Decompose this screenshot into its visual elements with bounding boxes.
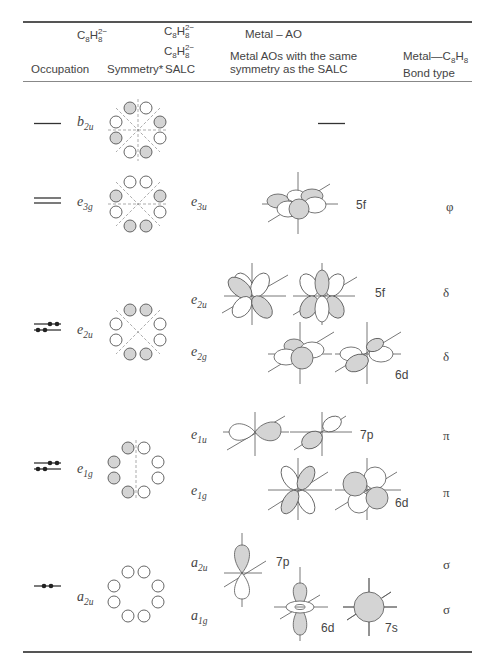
ao-label-7s-a1g: 7s bbox=[385, 621, 398, 635]
top-rule bbox=[23, 21, 472, 23]
symmetry-label-e3g: e3g bbox=[77, 194, 93, 212]
ao-label-6d-e2g: 6d bbox=[395, 368, 408, 382]
salc-label-a2u: a2u bbox=[191, 555, 208, 573]
orbital-7p-e1u-b-icon bbox=[290, 412, 360, 457]
header-c8h8-salc-top: C8H2−8 bbox=[164, 24, 194, 42]
orbital-6d-e2g-a-icon bbox=[268, 322, 338, 387]
symmetry-label-b2u: b2u bbox=[77, 114, 94, 132]
ao-label-5f-e3u: 5f bbox=[356, 198, 366, 212]
ring-e1g-icon bbox=[108, 440, 168, 510]
salc-label-e3u: e3u bbox=[191, 194, 207, 212]
ring-a2u-icon bbox=[108, 564, 168, 634]
occupation-empty-level-icon bbox=[34, 122, 64, 126]
occupation-filled-single-icon bbox=[34, 583, 64, 589]
orbital-5f-e3u-icon bbox=[260, 172, 340, 237]
ao-label-5f-e2u: 5f bbox=[375, 286, 385, 300]
header-metal-ao: Metal – AO bbox=[245, 28, 302, 41]
salc-label-e1u: e1u bbox=[191, 427, 207, 445]
bond-type-delta-1: δ bbox=[443, 285, 449, 301]
metal-ao-none-icon bbox=[318, 122, 348, 126]
ao-label-6d-a1g: 6d bbox=[321, 621, 334, 635]
orbital-5f-e2u-b-icon bbox=[293, 263, 363, 328]
salc-label-e2g: e2g bbox=[191, 344, 207, 362]
orbital-7p-a2u-icon bbox=[222, 533, 272, 608]
bond-type-pi-1: π bbox=[443, 428, 450, 444]
header-symmetry: Symmetry* bbox=[107, 63, 163, 76]
bond-type-pi-2: π bbox=[443, 485, 450, 501]
salc-label-e1g: e1g bbox=[191, 483, 207, 501]
bond-type-sigma-1: σ bbox=[443, 557, 450, 573]
salc-label-e2u: e2u bbox=[191, 292, 207, 310]
occupation-filled-pair-icon bbox=[34, 322, 64, 332]
orbital-6d-e1g-b-icon bbox=[335, 458, 405, 523]
header-occupation: Occupation bbox=[31, 63, 89, 76]
ring-b2u-icon bbox=[108, 97, 168, 167]
header-c8h8-salc-bottom: C8H2−8 bbox=[164, 44, 194, 62]
bond-type-phi: φ bbox=[446, 199, 454, 215]
ring-e3g-icon bbox=[108, 176, 168, 246]
header-metal-aos: Metal AOs with the same symmetry as the … bbox=[230, 50, 357, 76]
ring-e2u-icon bbox=[108, 302, 168, 372]
header-salc: SALC bbox=[165, 63, 195, 76]
orbital-5f-e2u-a-icon bbox=[222, 263, 292, 328]
ao-label-6d-e1g: 6d bbox=[395, 496, 408, 510]
bond-type-sigma-2: σ bbox=[443, 602, 450, 618]
bottom-rule bbox=[23, 651, 472, 653]
header-rule bbox=[23, 81, 472, 82]
ao-label-7p-e1u: 7p bbox=[360, 428, 373, 442]
symmetry-label-a2u: a2u bbox=[77, 589, 94, 607]
symmetry-label-e2u: e2u bbox=[77, 322, 93, 340]
orbital-6d-e1g-a-icon bbox=[268, 458, 338, 523]
occupation-filled-pair-icon-2 bbox=[34, 461, 64, 471]
symmetry-label-e1g: e1g bbox=[77, 461, 93, 479]
header-c8h8-group: C8H2−8 bbox=[77, 28, 107, 46]
occupation-empty-pair-icon bbox=[34, 197, 64, 205]
header-bond-type: Metal—C8H8 Bond type bbox=[403, 50, 468, 80]
bond-type-delta-2: δ bbox=[443, 349, 449, 365]
salc-label-a1g: a1g bbox=[191, 608, 208, 626]
orbital-7p-e1u-a-icon bbox=[223, 412, 293, 457]
